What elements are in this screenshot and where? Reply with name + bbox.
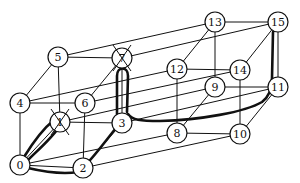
node-label: 3 (119, 117, 126, 130)
node-6: 6 (75, 93, 95, 113)
node-label: 14 (233, 64, 247, 77)
node-label: 12 (170, 63, 184, 76)
node-label: 5 (55, 51, 62, 64)
node-9: 9 (205, 77, 225, 97)
node-label: 2 (80, 162, 87, 175)
node-8: 8 (167, 123, 187, 143)
node-11: 11 (268, 77, 288, 97)
node-label: 4 (17, 97, 24, 110)
path-3-11-15 (128, 32, 273, 121)
edge-7-15 (122, 22, 278, 58)
node-label: 9 (212, 81, 219, 94)
node-label: 13 (208, 16, 222, 29)
node-14: 14 (230, 60, 250, 80)
node-label: 15 (271, 16, 285, 29)
node-2: 2 (73, 158, 93, 178)
node-1: 1 (50, 109, 70, 135)
node-3: 3 (112, 113, 132, 133)
node-15: 15 (268, 12, 288, 32)
node-label: 8 (174, 127, 181, 140)
node-13: 13 (205, 12, 225, 32)
node-5: 5 (48, 47, 68, 67)
hypercube-diagram: 0123456789101112131415 (0, 0, 300, 183)
graph-edges (20, 22, 278, 168)
node-label: 6 (82, 97, 89, 110)
node-10: 10 (230, 124, 250, 144)
node-12: 12 (167, 59, 187, 79)
node-label: 0 (17, 159, 24, 172)
node-0: 0 (10, 155, 30, 175)
node-label: 11 (271, 81, 285, 94)
node-label: 10 (233, 128, 247, 141)
node-4: 4 (10, 93, 30, 113)
